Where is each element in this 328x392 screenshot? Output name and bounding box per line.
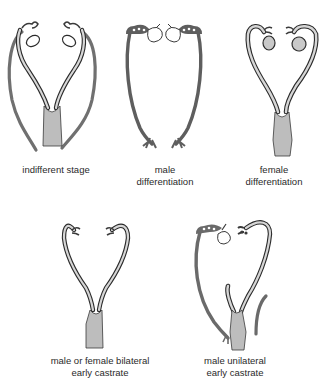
uterus [230,310,246,350]
urogenital-sinus [43,106,62,146]
wolffian-duct-left [9,32,36,150]
uterus [273,112,292,156]
panel-male-differentiation: male differentiation [110,0,220,200]
gonad-left-icon [24,33,41,49]
unilateral-castrate-diagram [170,200,328,350]
panel-unilateral-castrate: male unilateral early castrate [170,200,328,392]
oviduct-right [99,226,128,310]
wolffian-duct-left [127,32,152,144]
bilateral-castrate-diagram [30,200,170,350]
testis-left-icon [148,27,163,42]
wolffian-duct-left [196,232,228,338]
wolffian-duct-right [176,32,201,144]
indifferent-stage-diagram [0,0,110,160]
wolffian-duct-right [62,32,95,148]
panel-female-differentiation: female differentiation [220,0,328,200]
testis-icon [218,231,231,244]
uterus [86,310,103,348]
panel-bilateral-castrate: male or female bilateral early castrate [30,200,170,392]
caption-female-differentiation: female differentiation [224,164,324,187]
female-differentiation-diagram [220,0,328,160]
wolffian-remnant-right [256,296,266,334]
ovary-right-icon [289,34,308,53]
caption-male-differentiation: male differentiation [115,164,215,187]
male-differentiation-diagram [110,0,220,160]
ovary-left-icon [263,36,275,50]
panel-indifferent-stage: indifferent stage [0,0,110,180]
fimbria-left [22,22,38,28]
oviduct-left [64,226,93,310]
fimbria-right [64,22,80,28]
gonad-right-icon [60,33,77,49]
caption-bilateral-castrate: male or female bilateral early castrate [30,355,170,378]
caption-unilateral-castrate: male unilateral early castrate [170,355,300,378]
caption-indifferent-stage: indifferent stage [6,164,106,176]
testis-right-icon [166,27,181,42]
